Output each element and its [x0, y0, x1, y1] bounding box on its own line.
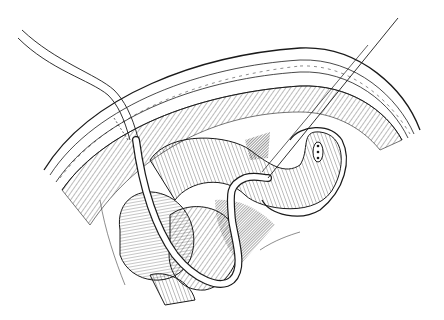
- bowel-opening: [313, 142, 323, 162]
- surgical-illustration: [0, 0, 444, 320]
